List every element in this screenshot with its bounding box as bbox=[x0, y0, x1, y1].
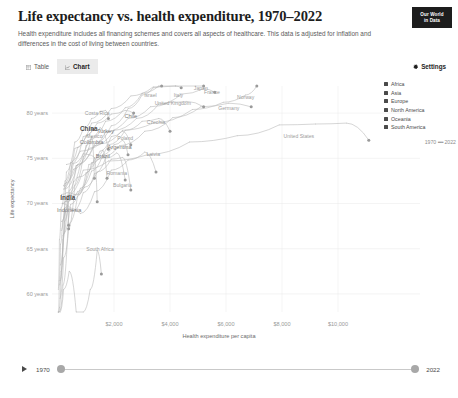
legend-item-asia[interactable]: Asia bbox=[384, 89, 456, 98]
table-icon bbox=[26, 64, 31, 69]
country-label-bulgaria[interactable]: Bulgaria bbox=[113, 182, 132, 188]
slider-track[interactable] bbox=[57, 369, 419, 370]
country-label-germany[interactable]: Germany bbox=[218, 105, 239, 111]
series-point bbox=[74, 185, 75, 186]
country-label-norway[interactable]: Norway bbox=[237, 94, 255, 100]
series-endpoint-romania[interactable] bbox=[124, 179, 127, 182]
slider-handle-end[interactable] bbox=[411, 365, 419, 373]
series-point bbox=[125, 110, 126, 111]
country-label-france[interactable]: France bbox=[204, 89, 220, 95]
slider-track-wrap[interactable] bbox=[57, 364, 419, 374]
series-endpoint-germany[interactable] bbox=[250, 105, 253, 108]
country-label-china[interactable]: China bbox=[80, 125, 98, 132]
country-label-latvia[interactable]: Latvia bbox=[146, 151, 160, 157]
series-point bbox=[144, 152, 145, 153]
series-point bbox=[59, 307, 60, 308]
series-point bbox=[125, 107, 126, 108]
country-label-india[interactable]: India bbox=[60, 194, 75, 201]
country-label-poland[interactable]: Poland bbox=[117, 135, 133, 141]
country-label-costa-rica[interactable]: Costa Rica bbox=[85, 110, 110, 116]
time-slider[interactable]: 1970 2022 bbox=[20, 362, 440, 376]
series-endpoint-italy[interactable] bbox=[180, 86, 183, 89]
legend-item-south-america[interactable]: South America bbox=[384, 123, 456, 132]
series-point bbox=[83, 312, 84, 313]
country-label-israel[interactable]: Israel bbox=[144, 92, 156, 98]
series-point bbox=[142, 121, 143, 122]
tab-table[interactable]: Table bbox=[18, 59, 57, 74]
legend-swatch-icon bbox=[384, 91, 388, 95]
country-label-italy[interactable]: Italy bbox=[174, 92, 184, 98]
series-point bbox=[91, 171, 92, 172]
play-icon[interactable] bbox=[20, 365, 29, 374]
series-point bbox=[315, 124, 316, 125]
country-label-south-africa[interactable]: South Africa bbox=[86, 246, 114, 252]
series-endpoint-latvia[interactable] bbox=[155, 170, 158, 173]
slider-handle-start[interactable] bbox=[57, 365, 65, 373]
chart-icon bbox=[65, 64, 70, 69]
country-label-argentina[interactable]: Argentina bbox=[108, 144, 133, 150]
series-endpoint-united-kingdom[interactable] bbox=[202, 105, 205, 108]
series-endpoint-israel[interactable] bbox=[160, 85, 163, 88]
country-label-united-states[interactable]: United States bbox=[284, 133, 315, 139]
series-endpoint-indonesia[interactable] bbox=[67, 224, 70, 227]
series-endpoint-united-states[interactable] bbox=[367, 139, 370, 142]
series-point bbox=[192, 109, 193, 110]
tab-chart[interactable]: Chart bbox=[57, 59, 97, 74]
series-endpoint-brazil[interactable] bbox=[106, 177, 109, 180]
y-axis-title: Life expectancy bbox=[9, 179, 15, 218]
legend-item-north-america[interactable]: North America bbox=[384, 106, 456, 115]
series-point bbox=[105, 121, 106, 122]
series-paths bbox=[58, 85, 371, 313]
x-axis-tick-labels: $2,000$4,000$6,000$8,000$10,000 bbox=[105, 321, 348, 327]
series-point bbox=[142, 93, 143, 94]
y-tick-label: 80 years bbox=[27, 110, 49, 116]
series-point bbox=[122, 131, 123, 132]
series-point bbox=[91, 123, 92, 124]
settings-button[interactable]: Settings bbox=[413, 59, 450, 74]
legend-item-oceania[interactable]: Oceania bbox=[384, 114, 456, 123]
country-label-indonesia[interactable]: Indonesia bbox=[57, 207, 82, 213]
series-point bbox=[63, 257, 64, 258]
series-point bbox=[100, 151, 101, 152]
legend-swatch-icon bbox=[384, 82, 388, 86]
chart-header: Life expectancy vs. health expenditure, … bbox=[18, 8, 393, 49]
country-label-united-kingdom[interactable]: United Kingdom bbox=[155, 100, 191, 106]
country-label-chile[interactable]: Chile bbox=[124, 113, 137, 119]
legend-swatch-icon bbox=[384, 117, 388, 121]
series-endpoint-mexico[interactable] bbox=[96, 200, 99, 203]
series-path-india[interactable] bbox=[58, 198, 68, 312]
series-point bbox=[83, 136, 84, 137]
series-endpoint-norway[interactable] bbox=[255, 85, 258, 88]
series-point bbox=[69, 271, 70, 272]
series-point bbox=[69, 223, 70, 224]
series-point bbox=[65, 189, 66, 190]
series-path-brazil[interactable] bbox=[60, 150, 107, 298]
legend-swatch-icon bbox=[384, 99, 388, 103]
owid-logo[interactable]: Our World in Data bbox=[412, 7, 452, 28]
legend-item-europe[interactable]: Europe bbox=[384, 97, 456, 106]
time-legend-start: 1970 bbox=[425, 139, 437, 145]
country-label-colombia[interactable]: Colombia bbox=[80, 139, 105, 145]
y-tick-label: 70 years bbox=[27, 200, 49, 206]
series-endpoint-argentina[interactable] bbox=[127, 153, 130, 156]
region-legend[interactable]: AfricaAsiaEuropeNorth AmericaOceaniaSout… bbox=[384, 80, 456, 132]
series-point bbox=[77, 177, 78, 178]
series-point bbox=[76, 312, 77, 313]
country-label-czechia[interactable]: Czechia bbox=[147, 119, 166, 125]
series-point bbox=[64, 221, 65, 222]
series-endpoint-india[interactable] bbox=[67, 227, 70, 230]
series-point bbox=[61, 221, 62, 222]
series-endpoint-bulgaria[interactable] bbox=[129, 189, 132, 192]
country-label-romania[interactable]: Romania bbox=[107, 170, 128, 176]
series-endpoint-czechia[interactable] bbox=[169, 130, 172, 133]
series-point bbox=[144, 131, 145, 132]
x-axis-title: Health expenditure per capita bbox=[182, 333, 256, 339]
x-tick-label: $10,000 bbox=[328, 321, 348, 327]
y-axis-tick-labels: 60 years65 years70 years75 years80 years bbox=[27, 110, 49, 297]
series-point bbox=[83, 192, 84, 193]
series-endpoint-south-africa[interactable] bbox=[100, 273, 103, 276]
series-point bbox=[94, 158, 95, 159]
country-label-brazil[interactable]: Brazil bbox=[96, 153, 110, 159]
legend-item-africa[interactable]: Africa bbox=[384, 80, 456, 89]
y-tick-label: 65 years bbox=[27, 246, 49, 252]
